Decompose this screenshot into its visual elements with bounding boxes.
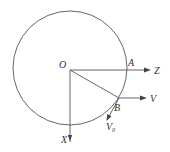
- label-v-vector: V: [150, 93, 158, 104]
- label-v0-vector: V0: [106, 121, 115, 133]
- circle-vector-diagram: O A B Z X V V0: [0, 0, 170, 152]
- label-z-axis: Z: [154, 65, 160, 76]
- v0-vector-arrowhead-icon: [107, 114, 112, 121]
- radius-ob-line: [70, 70, 119, 98]
- label-o: O: [59, 59, 66, 70]
- x-axis-arrowhead-icon: [68, 135, 72, 141]
- label-a: A: [127, 57, 135, 68]
- label-b: B: [114, 102, 120, 113]
- label-x-axis: X: [60, 134, 68, 145]
- label-v0-subscript: 0: [112, 127, 115, 133]
- z-axis-arrowhead-icon: [144, 68, 151, 73]
- v-vector-arrowhead-icon: [140, 96, 147, 101]
